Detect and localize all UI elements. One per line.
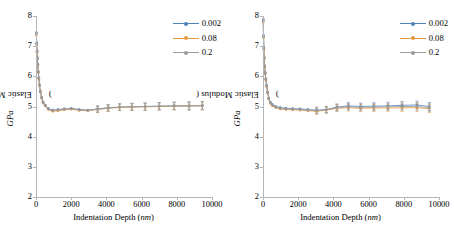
- legend-swatch-icon: [173, 20, 199, 27]
- data-point: [118, 106, 121, 109]
- legend-swatch-icon: [400, 35, 426, 42]
- legend-item-0.2[interactable]: 0.2: [173, 47, 221, 58]
- right-y-axis-title: Elastic Modulus (GPa): [229, 0, 245, 190]
- y-tick-label: 3: [255, 163, 259, 171]
- data-point: [63, 108, 66, 111]
- data-point: [201, 104, 204, 107]
- x-tick-label: 6000: [133, 201, 150, 209]
- data-point: [96, 108, 99, 111]
- y-tick-mark: [33, 16, 36, 17]
- right-x-axis-line: [263, 197, 439, 198]
- data-point: [131, 105, 134, 108]
- legend-item-0.2[interactable]: 0.2: [400, 47, 448, 58]
- legend-swatch-icon: [400, 20, 426, 27]
- data-point: [264, 72, 267, 75]
- legend-swatch-icon: [173, 35, 199, 42]
- data-point: [265, 85, 268, 88]
- data-point: [347, 105, 350, 108]
- data-point: [307, 109, 310, 112]
- y-tick-label: 7: [28, 42, 32, 50]
- right-legend: 0.0020.080.2: [400, 18, 448, 58]
- left-x-axis-line: [36, 197, 212, 198]
- left-y-axis-title: Elastic Modulus (GPa): [2, 0, 18, 190]
- data-point: [188, 105, 191, 108]
- y-tick-mark: [260, 76, 263, 77]
- data-point: [275, 106, 278, 109]
- x-tick-label: 10000: [202, 201, 223, 209]
- right-x-axis-title: Indentation Depth (nm): [227, 212, 454, 222]
- x-tick-label: 6000: [360, 201, 377, 209]
- x-tick-label: 10000: [429, 201, 450, 209]
- x-tick-label: 0: [34, 201, 38, 209]
- y-tick-mark: [260, 137, 263, 138]
- data-point: [373, 106, 376, 109]
- legend-label: 0.2: [202, 48, 213, 57]
- data-point: [70, 107, 73, 110]
- legend-label: 0.2: [429, 48, 440, 57]
- data-point: [107, 107, 110, 110]
- data-point: [42, 101, 45, 104]
- data-point: [44, 104, 47, 107]
- legend-swatch-icon: [400, 49, 426, 56]
- data-point: [325, 108, 328, 111]
- data-point: [336, 106, 339, 109]
- data-point: [39, 90, 42, 93]
- data-point: [299, 108, 302, 111]
- data-point: [285, 108, 288, 111]
- legend-item-0.08[interactable]: 0.08: [173, 33, 221, 44]
- x-tick-label: 4000: [98, 201, 115, 209]
- figure-elastic-modulus-vs-indentation-depth: Elastic Modulus (GPa) 2345678 0200040006…: [0, 0, 454, 235]
- y-tick-label: 2: [28, 193, 32, 201]
- data-point: [359, 106, 362, 109]
- data-point: [387, 105, 390, 108]
- x-tick-label: 2000: [290, 201, 307, 209]
- legend-label: 0.08: [202, 34, 217, 43]
- legend-item-0.08[interactable]: 0.08: [400, 33, 448, 44]
- y-tick-label: 6: [28, 72, 32, 80]
- data-point: [291, 108, 294, 111]
- data-point: [315, 109, 318, 112]
- right-panel: Elastic Modulus (GPa) 2345678 0200040006…: [227, 0, 454, 235]
- data-point: [416, 105, 419, 108]
- y-tick-label: 4: [28, 132, 32, 140]
- data-point: [57, 108, 60, 111]
- data-point: [144, 105, 147, 108]
- left-x-axis-title: Indentation Depth (nm): [0, 212, 227, 222]
- y-tick-label: 4: [255, 132, 259, 140]
- legend-swatch-icon: [173, 49, 199, 56]
- data-point: [47, 108, 50, 111]
- data-point: [269, 102, 272, 105]
- legend-label: 0.08: [429, 34, 444, 43]
- left-y-axis-line: [36, 16, 37, 197]
- legend-item-0.002[interactable]: 0.002: [400, 18, 448, 29]
- left-panel: Elastic Modulus (GPa) 2345678 0200040006…: [0, 0, 227, 235]
- x-tick-label: 2000: [63, 201, 80, 209]
- data-point: [266, 91, 269, 94]
- y-tick-mark: [33, 167, 36, 168]
- y-tick-mark: [260, 46, 263, 47]
- right-y-axis-line: [263, 16, 264, 197]
- y-tick-label: 6: [255, 72, 259, 80]
- data-point: [158, 105, 161, 108]
- data-point: [37, 77, 40, 80]
- y-tick-mark: [260, 16, 263, 17]
- data-point: [38, 84, 41, 87]
- y-tick-label: 5: [28, 102, 32, 110]
- y-tick-mark: [260, 167, 263, 168]
- y-tick-mark: [33, 46, 36, 47]
- y-tick-mark: [33, 137, 36, 138]
- data-point: [271, 104, 274, 107]
- left-legend: 0.0020.080.2: [173, 18, 221, 58]
- data-point: [37, 71, 40, 74]
- y-tick-mark: [33, 76, 36, 77]
- y-tick-label: 2: [255, 193, 259, 201]
- data-point: [401, 105, 404, 108]
- legend-item-0.002[interactable]: 0.002: [173, 18, 221, 29]
- y-tick-label: 8: [255, 12, 259, 20]
- y-tick-label: 3: [28, 163, 32, 171]
- data-point: [51, 109, 54, 112]
- data-point: [78, 108, 81, 111]
- x-tick-label: 8000: [168, 201, 185, 209]
- y-tick-label: 7: [255, 42, 259, 50]
- legend-label: 0.002: [429, 19, 448, 28]
